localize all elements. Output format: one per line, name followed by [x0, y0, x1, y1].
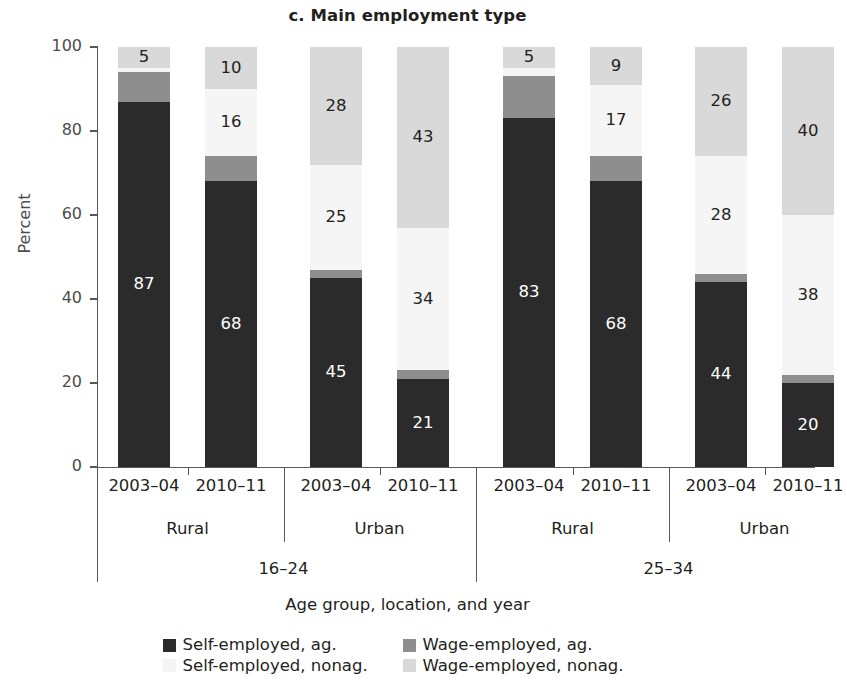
bar-4-label-wage-employed-nonag: 43: [413, 129, 434, 146]
y-tick-label-60: 60: [22, 206, 82, 222]
legend-label-wage-employed-ag: Wage-employed, ag.: [423, 637, 593, 654]
bar-4-segment-self-employed-ag[interactable]: 21: [397, 379, 449, 467]
bar-6-segment-wage-employed-ag[interactable]: [590, 156, 642, 181]
bar-2[interactable]: 681610: [205, 47, 257, 467]
x-tick-minor: [765, 467, 766, 475]
y-tick-20: [90, 382, 98, 383]
x-location-label-3: Rural: [483, 519, 663, 538]
bar-4-segment-wage-employed-ag[interactable]: [397, 370, 449, 378]
legend-item-wage-employed-ag[interactable]: Wage-employed, ag.: [403, 637, 653, 654]
bar-7-label-wage-employed-nonag: 26: [711, 93, 732, 110]
bar-5-segment-self-employed-ag[interactable]: 83: [503, 118, 555, 467]
legend-swatch-self-employed-ag: [163, 639, 176, 652]
x-location-label-1: Rural: [98, 519, 278, 538]
x-year-label-3: 2003–04: [288, 476, 384, 495]
bar-7-segment-wage-employed-ag[interactable]: [695, 274, 747, 282]
bar-5-segment-wage-employed-nonag[interactable]: 5: [503, 47, 555, 68]
bar-3-segment-wage-employed-ag[interactable]: [310, 270, 362, 278]
bar-5-label-self-employed-ag: 83: [519, 284, 540, 301]
bar-1-segment-self-employed-ag[interactable]: 87: [118, 102, 170, 467]
bar-7-segment-self-employed-nonag[interactable]: 28: [695, 156, 747, 274]
legend-row: Self-employed, ag. Wage-employed, ag.: [163, 637, 653, 654]
bar-7-label-self-employed-nonag: 28: [711, 207, 732, 224]
bar-2-label-self-employed-ag: 68: [221, 316, 242, 333]
chart-title: c. Main employment type: [0, 6, 815, 25]
bar-4-label-self-employed-nonag: 34: [413, 291, 434, 308]
legend-swatch-wage-employed-nonag: [403, 659, 416, 672]
bar-3-label-self-employed-nonag: 25: [326, 209, 347, 226]
bar-8-segment-wage-employed-ag[interactable]: [782, 375, 834, 383]
x-year-label-2: 2010–11: [183, 476, 279, 495]
y-axis-title: Percent: [15, 164, 34, 284]
bar-3-segment-self-employed-nonag[interactable]: 25: [310, 165, 362, 270]
x-location-separator-1: [284, 468, 285, 542]
bar-2-segment-wage-employed-nonag[interactable]: 10: [205, 47, 257, 89]
y-tick-label-0: 0: [22, 458, 82, 474]
y-tick-label-80: 80: [22, 122, 82, 138]
bar-7-segment-self-employed-ag[interactable]: 44: [695, 282, 747, 467]
bar-1-label-self-employed-ag: 87: [134, 276, 155, 293]
bar-6-label-self-employed-nonag: 17: [606, 112, 627, 129]
bar-2-segment-wage-employed-ag[interactable]: [205, 156, 257, 181]
x-location-label-2: Urban: [290, 519, 470, 538]
legend-item-self-employed-nonag[interactable]: Self-employed, nonag.: [163, 658, 403, 675]
x-tick-minor: [380, 467, 381, 475]
bar-2-label-self-employed-nonag: 16: [221, 114, 242, 131]
bar-4-segment-wage-employed-nonag[interactable]: 43: [397, 47, 449, 228]
bar-1-segment-self-employed-nonag[interactable]: [118, 68, 170, 72]
bar-8-label-self-employed-ag: 20: [798, 417, 819, 434]
x-year-label-7: 2003–04: [673, 476, 769, 495]
legend-label-wage-employed-nonag: Wage-employed, nonag.: [423, 658, 624, 675]
legend-item-wage-employed-nonag[interactable]: Wage-employed, nonag.: [403, 658, 653, 675]
bar-3-label-self-employed-ag: 45: [326, 364, 347, 381]
bar-5[interactable]: 835: [503, 47, 555, 467]
legend-label-self-employed-ag: Self-employed, ag.: [183, 637, 337, 654]
bar-6-segment-wage-employed-nonag[interactable]: 9: [590, 47, 642, 85]
bar-8-segment-self-employed-ag[interactable]: 20: [782, 383, 834, 467]
x-year-label-1: 2003–04: [96, 476, 192, 495]
bar-1-segment-wage-employed-ag[interactable]: [118, 72, 170, 101]
bar-8-label-wage-employed-nonag: 40: [798, 123, 819, 140]
bar-8-segment-self-employed-nonag[interactable]: 38: [782, 215, 834, 375]
x-age-group-label-2: 25–34: [489, 559, 847, 578]
bar-2-label-wage-employed-nonag: 10: [221, 60, 242, 77]
y-tick-label-100: 100: [22, 38, 82, 54]
plot-area: 8756816104525282134438356817944282620384…: [98, 47, 815, 467]
bar-2-segment-self-employed-ag[interactable]: 68: [205, 181, 257, 467]
x-axis-line: [97, 467, 815, 468]
bar-3-segment-self-employed-ag[interactable]: 45: [310, 278, 362, 467]
x-year-label-6: 2010–11: [568, 476, 664, 495]
bar-3-segment-wage-employed-nonag[interactable]: 28: [310, 47, 362, 165]
bar-8[interactable]: 203840: [782, 47, 834, 467]
bar-4-segment-self-employed-nonag[interactable]: 34: [397, 228, 449, 371]
legend: Self-employed, ag. Wage-employed, ag. Se…: [0, 637, 815, 674]
bar-4[interactable]: 213443: [397, 47, 449, 467]
bar-6[interactable]: 68179: [590, 47, 642, 467]
bar-5-segment-self-employed-nonag[interactable]: [503, 68, 555, 76]
bar-4-label-self-employed-ag: 21: [413, 415, 434, 432]
bar-7[interactable]: 442826: [695, 47, 747, 467]
x-location-separator-2: [669, 468, 670, 542]
legend-item-self-employed-ag[interactable]: Self-employed, ag.: [163, 637, 403, 654]
bar-1-label-wage-employed-nonag: 5: [139, 49, 150, 66]
bar-2-segment-self-employed-nonag[interactable]: 16: [205, 89, 257, 156]
bar-7-label-self-employed-ag: 44: [711, 366, 732, 383]
bar-6-segment-self-employed-nonag[interactable]: 17: [590, 85, 642, 156]
y-tick-label-20: 20: [22, 374, 82, 390]
bar-5-segment-wage-employed-ag[interactable]: [503, 76, 555, 118]
legend-label-self-employed-nonag: Self-employed, nonag.: [183, 658, 368, 675]
y-tick-80: [90, 130, 98, 131]
y-tick-100: [90, 46, 98, 47]
legend-swatch-self-employed-nonag: [163, 659, 176, 672]
bar-1[interactable]: 875: [118, 47, 170, 467]
bar-6-label-self-employed-ag: 68: [606, 316, 627, 333]
bar-1-segment-wage-employed-nonag[interactable]: 5: [118, 47, 170, 68]
bar-6-label-wage-employed-nonag: 9: [611, 58, 622, 75]
bar-3[interactable]: 452528: [310, 47, 362, 467]
bar-3-label-wage-employed-nonag: 28: [326, 98, 347, 115]
bar-5-label-wage-employed-nonag: 5: [524, 49, 535, 66]
legend-row: Self-employed, nonag. Wage-employed, non…: [163, 658, 653, 675]
bar-7-segment-wage-employed-nonag[interactable]: 26: [695, 47, 747, 156]
bar-6-segment-self-employed-ag[interactable]: 68: [590, 181, 642, 467]
bar-8-segment-wage-employed-nonag[interactable]: 40: [782, 47, 834, 215]
